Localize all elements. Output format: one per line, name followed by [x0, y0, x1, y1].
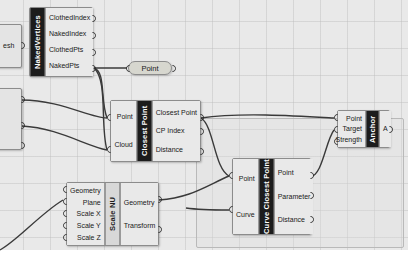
output-port-distance[interactable]: Distance	[275, 216, 308, 223]
scale-nu-outputs: Geometry Transform	[120, 183, 159, 245]
output-port-geometry[interactable]: Geometry	[121, 199, 158, 206]
curve-closest-point-title: Curve Closest Point	[259, 159, 274, 234]
output-port-cp-index[interactable]: CP Index	[153, 127, 188, 134]
output-port-clothed-index[interactable]: ClothedIndex	[46, 14, 93, 21]
naked-vertices-title: NakedVertices	[30, 8, 45, 76]
anchor-outputs: A	[379, 111, 391, 147]
grasshopper-canvas[interactable]: esh NakedVertices ClothedIndex NakedInde…	[0, 0, 408, 272]
input-port-plane[interactable]: Plane	[80, 199, 104, 206]
output-port-naked-pts[interactable]: NakedPts	[46, 62, 82, 69]
canvas-bottom-strip	[0, 250, 408, 272]
closest-point-inputs: Point Cloud	[111, 101, 137, 161]
param-point-label: Point	[141, 64, 158, 73]
closest-point-outputs: Closest Point CP Index Distance	[152, 101, 200, 161]
param-point[interactable]: Point	[128, 61, 172, 75]
component-closest-point[interactable]: Point Cloud Closest Point Closest Point …	[110, 100, 201, 162]
output-port-parameter[interactable]: Parameter	[275, 193, 314, 200]
output-port-a[interactable]: A	[380, 125, 391, 132]
input-port-scale-y[interactable]: Scale Y	[74, 222, 104, 229]
naked-vertices-outputs: ClothedIndex NakedIndex ClothedPts Naked…	[45, 8, 93, 76]
curve-closest-point-inputs: Point Curve	[233, 159, 259, 234]
output-port-transform[interactable]: Transform	[121, 222, 159, 229]
closest-point-title: Closest Point	[137, 101, 152, 161]
input-port-strength[interactable]: Strength	[333, 136, 365, 143]
component-anchor[interactable]: Point Target Strength Anchor A	[337, 110, 390, 148]
output-port-closest-point[interactable]: Closest Point	[153, 109, 200, 116]
input-port-scale-z[interactable]: Scale Z	[74, 234, 104, 241]
mesh-source-component[interactable]: esh	[0, 24, 22, 68]
input-port-curve[interactable]: Curve	[233, 211, 258, 218]
input-port-target[interactable]: Target	[340, 125, 365, 132]
input-port-point[interactable]: Point	[114, 113, 136, 120]
input-port-point[interactable]: Point	[236, 175, 258, 182]
input-port-cloud[interactable]: Cloud	[111, 141, 135, 148]
component-naked-vertices[interactable]: NakedVertices ClothedIndex NakedIndex Cl…	[29, 7, 93, 77]
anchor-inputs: Point Target Strength	[338, 111, 366, 147]
scale-nu-title: Scale NU	[105, 183, 120, 245]
output-port-naked-index[interactable]: NakedIndex	[46, 30, 89, 37]
component-curve-closest-point[interactable]: Point Curve Curve Closest Point Point Pa…	[232, 158, 311, 235]
anchor-title: Anchor	[366, 111, 379, 147]
output-port-clothed-pts[interactable]: ClothedPts	[46, 46, 86, 53]
left-clip-component[interactable]	[0, 88, 22, 150]
output-port-point[interactable]: Point	[275, 169, 297, 176]
input-port-point[interactable]: Point	[343, 115, 365, 122]
input-port-scale-x[interactable]: Scale X	[74, 210, 104, 217]
output-port-distance[interactable]: Distance	[153, 146, 186, 153]
mesh-input-label: esh	[3, 42, 14, 49]
component-scale-nu[interactable]: Geometry Plane Scale X Scale Y Scale Z S…	[66, 182, 159, 246]
scale-nu-inputs: Geometry Plane Scale X Scale Y Scale Z	[67, 183, 105, 245]
input-port-geometry[interactable]: Geometry	[67, 187, 104, 194]
curve-closest-point-outputs: Point Parameter Distance	[274, 159, 314, 234]
